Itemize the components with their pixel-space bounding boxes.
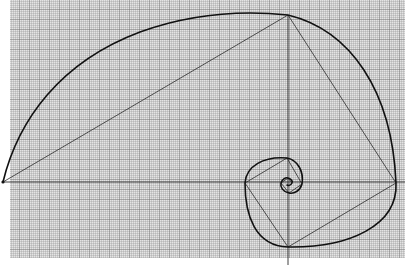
- diagram-canvas: Golden spiral with inscribed rectangles …: [0, 0, 405, 265]
- start-point: [1, 180, 4, 183]
- spiral-figure: [0, 0, 405, 265]
- graph-paper: [10, 0, 405, 258]
